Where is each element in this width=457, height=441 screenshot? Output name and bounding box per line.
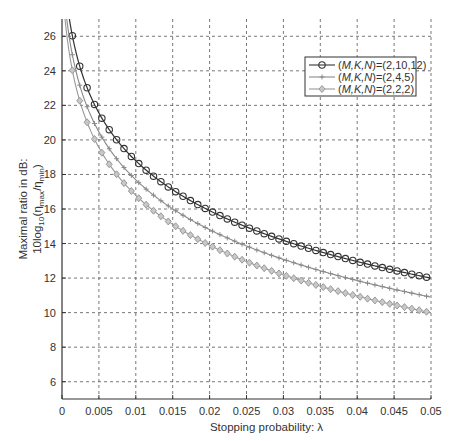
y-tick-label: 22 [44,99,56,111]
y-tick-label: 12 [44,272,56,284]
y-tick-labels: 68101214161820222426 [44,30,66,387]
y-axis-label: Maximal ratio in dB:10log10 (ηmax /ηmin … [17,159,46,260]
x-axis-label: Stopping probability: λ [210,421,323,433]
x-tick-label: 0.02 [199,405,220,417]
y-tick-label: 10 [44,307,56,319]
svg-text:(M,K,N)=(2,10,12): (M,K,N)=(2,10,12) [338,59,426,71]
x-tick-labels: 00.0050.010.0150.020.0250.030.0350.040.0… [59,395,442,417]
y-tick-label: 26 [44,30,56,42]
y-tick-label: 20 [44,134,56,146]
y-tick-label: 6 [50,376,56,388]
chart-figure: 00.0050.010.0150.020.0250.030.0350.040.0… [0,0,457,441]
y-tick-label: 8 [50,341,56,353]
y-tick-label: 14 [44,238,56,250]
legend: (M,K,N)=(2,10,12)(M,K,N)=(2,4,5)(M,K,N)=… [305,57,426,96]
svg-text:Maximal ratio in dB:: Maximal ratio in dB: [17,159,29,260]
x-tick-label: 0.005 [85,405,113,417]
series-2 [64,0,430,299]
line-chart: 00.0050.010.0150.020.0250.030.0350.040.0… [0,0,457,441]
x-tick-label: 0.05 [420,405,441,417]
x-tick-label: 0.01 [125,405,146,417]
x-tick-label: 0.035 [307,405,335,417]
x-tick-label: 0.04 [346,405,367,417]
x-tick-label: 0.045 [380,405,408,417]
x-tick-label: 0.03 [273,405,294,417]
x-tick-label: 0 [59,405,65,417]
plot-area [64,0,430,315]
x-tick-label: 0.025 [233,405,261,417]
svg-text:(M,K,N)=(2,4,5): (M,K,N)=(2,4,5) [338,71,414,83]
svg-text:(M,K,N)=(2,2,2): (M,K,N)=(2,2,2) [338,83,414,95]
x-tick-label: 0.015 [159,405,187,417]
y-tick-label: 24 [44,65,56,77]
